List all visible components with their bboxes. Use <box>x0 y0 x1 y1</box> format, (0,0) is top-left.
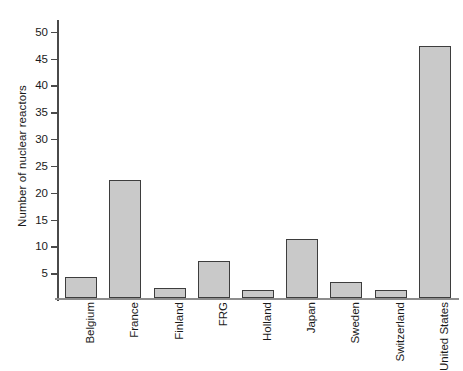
y-tick-label: 50 <box>35 26 48 38</box>
bar <box>65 277 97 298</box>
y-tick-label: 40 <box>35 79 48 91</box>
x-axis-label: France <box>128 302 140 338</box>
y-tick-label: 10 <box>35 240 48 252</box>
x-axis-labels: BelgiumFranceFinlandFRGHollandJapanSwede… <box>57 302 457 368</box>
bar <box>330 282 362 298</box>
x-axis-label: Holland <box>261 302 273 341</box>
y-tick-mark <box>51 166 57 167</box>
x-axis-label: Sweden <box>349 302 361 344</box>
y-tick-mark <box>51 112 57 113</box>
y-axis-title: Number of nuclear reactors <box>16 56 28 256</box>
y-tick-label: 5 <box>42 267 48 279</box>
bar <box>419 46 451 298</box>
x-axis-label: United States <box>438 302 450 371</box>
x-axis-line <box>55 298 459 300</box>
y-tick-label: 30 <box>35 133 48 145</box>
y-tick-label: 20 <box>35 187 48 199</box>
y-tick-label: 45 <box>35 53 48 65</box>
bar <box>109 180 141 298</box>
y-tick-label: 25 <box>35 160 48 172</box>
bar <box>286 239 318 298</box>
bar-series <box>59 19 457 298</box>
y-tick-mark <box>51 193 57 194</box>
y-tick-label: 35 <box>35 106 48 118</box>
x-axis-label: Finland <box>173 302 185 340</box>
x-axis-label: Switzerland <box>394 302 406 361</box>
y-tick-mark <box>51 59 57 60</box>
x-axis-label: Japan <box>305 302 317 333</box>
y-tick-label: 15 <box>35 214 48 226</box>
y-tick-mark <box>51 139 57 140</box>
bar <box>154 288 186 299</box>
y-tick-mark <box>51 85 57 86</box>
bar <box>198 261 230 299</box>
y-tick-mark <box>51 273 57 274</box>
bar <box>375 290 407 298</box>
y-tick-mark <box>51 246 57 247</box>
y-tick-mark <box>51 220 57 221</box>
bar <box>242 290 274 298</box>
plot-area: 5101520253035404550 <box>57 20 457 300</box>
x-axis-label: FRG <box>217 302 229 326</box>
x-axis-label: Belgium <box>84 302 96 344</box>
y-tick-mark <box>51 32 57 33</box>
